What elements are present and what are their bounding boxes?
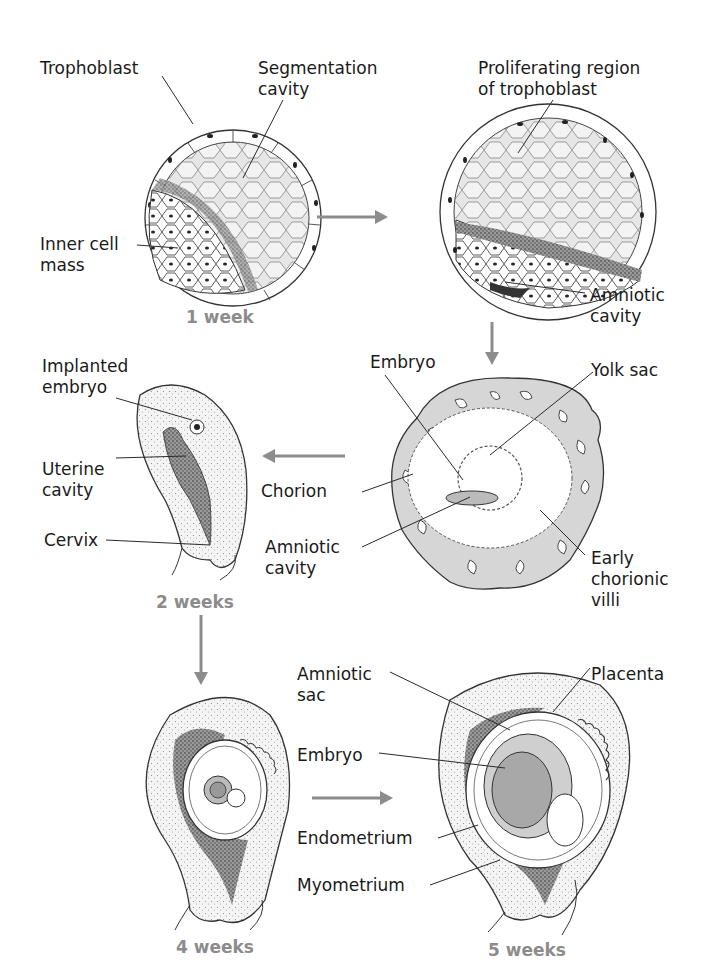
label-segmentation-cavity: Segmentation cavity <box>258 58 377 100</box>
uterus-4wk-illustration <box>146 698 289 931</box>
stage-label-4-weeks: 4 weeks <box>176 937 254 957</box>
label-inner-cell-mass: Inner cell mass <box>40 234 119 276</box>
label-endometrium: Endometrium <box>297 828 412 849</box>
label-myometrium: Myometrium <box>297 875 405 896</box>
label-early-chorionic-villi: Early chorionic villi <box>591 548 668 611</box>
uterus-2wk-illustration <box>137 385 247 580</box>
chorionic-section-illustration <box>392 378 604 589</box>
label-trophoblast: Trophoblast <box>40 58 138 79</box>
label-placenta: Placenta <box>591 664 664 685</box>
uterus-5wk-illustration <box>439 673 630 935</box>
label-cervix: Cervix <box>44 530 98 551</box>
label-embryo-1: Embryo <box>370 352 436 373</box>
label-proliferating-region: Proliferating region of trophoblast <box>478 58 640 100</box>
arrow-right-icon <box>317 210 388 224</box>
stage-label-1-week: 1 week <box>186 307 254 327</box>
label-yolk-sac: Yolk sac <box>591 360 658 381</box>
label-amniotic-sac: Amniotic sac <box>297 664 372 706</box>
label-embryo-2: Embryo <box>297 745 363 766</box>
arrow-down-icon <box>485 322 499 365</box>
label-amniotic-cavity-1: Amniotic cavity <box>590 285 665 327</box>
blastocyst-illustration <box>145 130 321 306</box>
label-chorion: Chorion <box>261 481 327 502</box>
stage-label-5-weeks: 5 weeks <box>488 940 566 960</box>
stage-label-2-weeks: 2 weeks <box>156 592 234 612</box>
arrow-down-icon <box>194 615 208 685</box>
label-implanted-embryo: Implanted embryo <box>42 356 128 398</box>
label-uterine-cavity: Uterine cavity <box>42 459 105 501</box>
arrow-right-icon <box>312 791 393 805</box>
diagram-artwork <box>0 0 724 971</box>
label-amniotic-cavity-2: Amniotic cavity <box>265 537 340 579</box>
arrow-left-icon <box>262 449 345 463</box>
